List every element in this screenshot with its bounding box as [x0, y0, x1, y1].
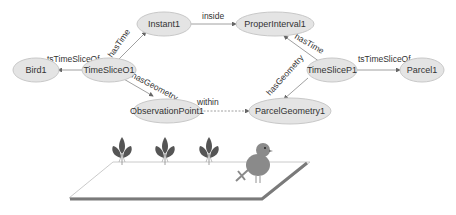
node-label: Parcel1: [407, 65, 438, 75]
node-timeslice-o1[interactable]: TimeSliceO1: [82, 58, 136, 82]
edge-o1-instant: hasTime: [105, 27, 146, 60]
edge-label-hasgeometry-o1: hasGeometry: [130, 70, 180, 103]
node-proper-interval1[interactable]: ProperInterval1: [236, 12, 314, 36]
node-label: TimeSliceP1: [307, 65, 357, 75]
plant-icon: [199, 137, 218, 165]
node-timeslice-p1[interactable]: TimeSliceP1: [307, 58, 357, 82]
node-label: ObservationPoint1: [130, 106, 204, 116]
node-label: ParcelGeometry1: [255, 106, 325, 116]
node-parcel1[interactable]: Parcel1: [400, 58, 444, 82]
edge-label-hastime-p1: hasTime: [293, 31, 326, 56]
node-label: Bird1: [25, 65, 46, 75]
node-label: TimeSliceO1: [83, 65, 134, 75]
edge-label-inside: inside: [202, 11, 224, 21]
node-label: Instant1: [148, 19, 180, 29]
edge-label-tstimesliceof-p1: tsTimeSliceOf: [358, 54, 411, 64]
node-instant1[interactable]: Instant1: [137, 12, 191, 36]
plant-icon: [155, 137, 174, 165]
parcel-plane-illustration: [69, 162, 310, 199]
edge-label-hasgeometry-p1: hasGeometry: [264, 52, 306, 97]
edge-p1-interval: hasTime: [284, 31, 326, 62]
edge-p1-parcelgeom: hasGeometry: [264, 52, 308, 99]
plant-icon: [112, 137, 131, 165]
edge-instant-interval: inside: [190, 11, 236, 24]
node-observation-point1[interactable]: ObservationPoint1: [130, 99, 204, 123]
node-label: ProperInterval1: [244, 19, 306, 29]
diagram-canvas: tsTimeSliceOf hasTime hasGeometry inside…: [0, 0, 456, 215]
edge-label-hastime-o1: hasTime: [105, 27, 132, 59]
node-bird1[interactable]: Bird1: [13, 58, 59, 82]
node-parcel-geometry1[interactable]: ParcelGeometry1: [249, 98, 331, 124]
